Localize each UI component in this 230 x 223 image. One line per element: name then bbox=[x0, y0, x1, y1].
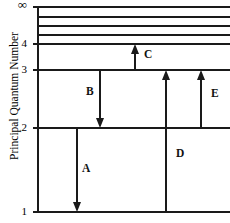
transition-arrowhead-B bbox=[96, 118, 104, 128]
axis-group bbox=[33, 7, 38, 212]
y-axis-label-n-2: 2 bbox=[9, 122, 27, 133]
diagram-canvas bbox=[0, 0, 230, 223]
transition-label-E: E bbox=[211, 88, 219, 100]
transition-label-B: B bbox=[86, 86, 94, 98]
transition-arrowhead-C bbox=[131, 44, 139, 54]
transition-label-D: D bbox=[176, 148, 184, 160]
y-axis-label-n-1: 1 bbox=[9, 206, 27, 217]
transition-arrowhead-A bbox=[73, 202, 81, 212]
y-axis-label-n-3: 3 bbox=[9, 64, 27, 75]
y-axis-label-n-infinity: ∞ bbox=[9, 0, 27, 11]
transition-label-C: C bbox=[144, 49, 152, 61]
y-axis-label-n-4: 4 bbox=[9, 38, 27, 49]
transition-arrowhead-D bbox=[162, 70, 170, 80]
transition-arrowhead-E bbox=[197, 70, 205, 80]
transition-label-A: A bbox=[82, 163, 90, 175]
energy-level-diagram: Principal Quantum Number ∞4321ABCDE bbox=[0, 0, 230, 223]
